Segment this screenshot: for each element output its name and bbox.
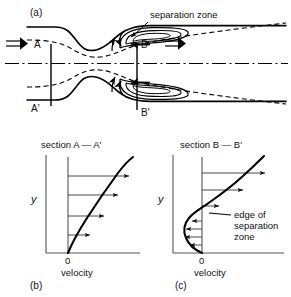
edge-annotation-line-1: edge of (234, 209, 266, 220)
panel-b-x-axis-label: velocity (61, 267, 93, 278)
edge-annotation-line-2: separation (234, 220, 278, 231)
station-b-bottom-label: B' (141, 107, 150, 118)
panel-a-label: (a) (30, 7, 42, 18)
panel-c-origin-label: 0 (199, 255, 204, 266)
panel-c-label: (c) (175, 280, 187, 291)
panel-b-label: (b) (30, 280, 42, 291)
section-a-chart-title: section A — A' (41, 139, 102, 150)
separation-zone-figure: (a) separation zone (0, 0, 291, 297)
edge-annotation-line-3: zone (234, 231, 255, 242)
section-b-chart-title: section B — B' (180, 139, 242, 150)
station-a-top-label: A (34, 39, 41, 50)
station-a-bottom-label: A' (31, 103, 40, 114)
panel-b-origin-label: 0 (65, 255, 70, 266)
station-b-top-label: B (141, 39, 148, 50)
panel-c-x-axis-label: velocity (194, 267, 226, 278)
separation-zone-annotation-label: separation zone (150, 9, 218, 20)
